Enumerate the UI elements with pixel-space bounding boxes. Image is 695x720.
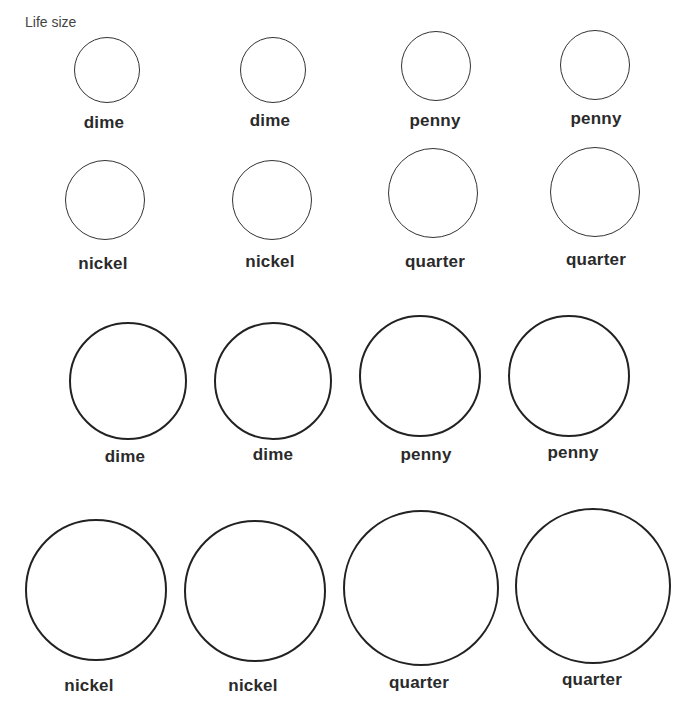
penny-outline-circle [359, 315, 481, 437]
dime-outline-circle [74, 37, 140, 103]
quarter-label: quarter [389, 673, 449, 693]
quarter-outline-circle [343, 510, 499, 666]
quarter-label: quarter [562, 670, 622, 690]
nickel-label: nickel [228, 676, 277, 696]
penny-label: penny [547, 443, 598, 463]
penny-label: penny [570, 109, 621, 129]
nickel-outline-circle [184, 520, 326, 662]
nickel-outline-circle [232, 160, 312, 240]
dime-label: dime [250, 111, 290, 131]
dime-outline-circle [240, 37, 306, 103]
dime-label: dime [84, 113, 124, 133]
life-size-caption: Life size [25, 14, 76, 30]
dime-outline-circle [214, 322, 332, 440]
penny-outline-circle [401, 31, 471, 101]
dime-label: dime [253, 445, 293, 465]
nickel-label: nickel [64, 676, 113, 696]
nickel-label: nickel [245, 252, 294, 272]
quarter-outline-circle [515, 508, 671, 664]
nickel-outline-circle [65, 160, 145, 240]
penny-outline-circle [508, 315, 630, 437]
quarter-outline-circle [388, 148, 478, 238]
quarter-label: quarter [405, 252, 465, 272]
nickel-label: nickel [78, 254, 127, 274]
penny-label: penny [400, 445, 451, 465]
quarter-outline-circle [550, 147, 640, 237]
quarter-label: quarter [566, 250, 626, 270]
penny-label: penny [409, 111, 460, 131]
dime-outline-circle [69, 322, 187, 440]
penny-outline-circle [560, 30, 630, 100]
dime-label: dime [105, 447, 145, 467]
nickel-outline-circle [25, 519, 167, 661]
